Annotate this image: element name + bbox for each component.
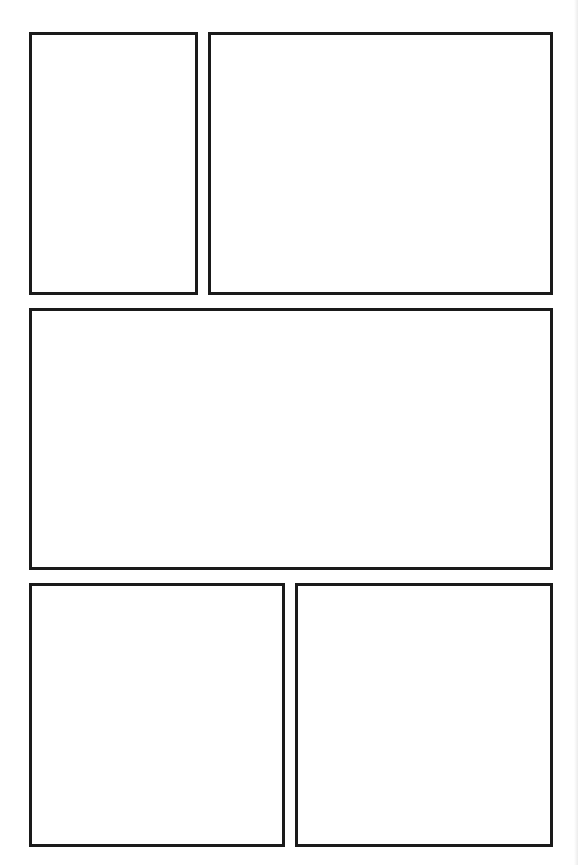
- panel-5: [295, 583, 553, 847]
- page-edge-shadow: [574, 0, 578, 865]
- panel-4: [29, 583, 285, 847]
- comic-page: [0, 0, 578, 865]
- panel-3: [29, 308, 553, 570]
- panel-1: [29, 32, 198, 295]
- panel-2: [208, 32, 553, 295]
